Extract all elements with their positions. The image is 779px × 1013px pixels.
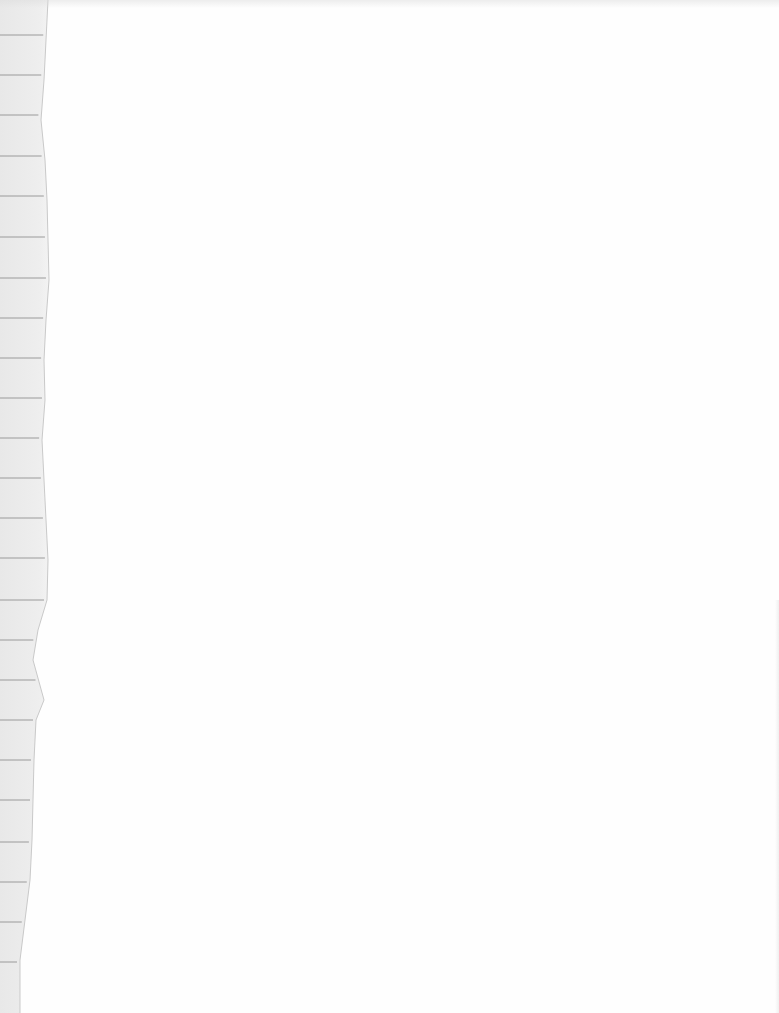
torn-notebook-strip — [0, 0, 779, 1013]
paper-strip-fill — [0, 0, 49, 1013]
right-edge-shadow — [775, 600, 779, 1013]
top-edge-shadow — [0, 0, 779, 8]
blank-paper-page — [0, 0, 779, 1013]
